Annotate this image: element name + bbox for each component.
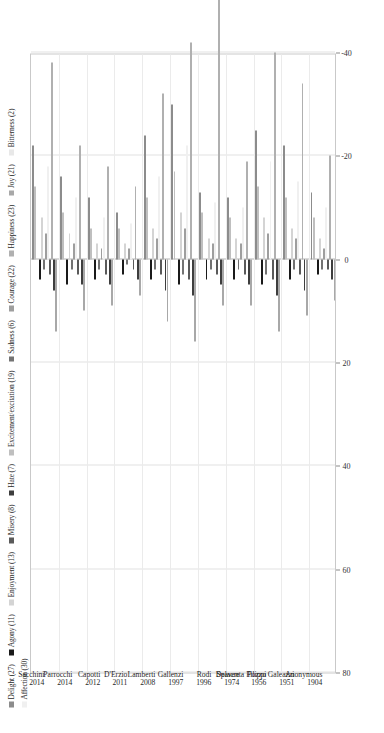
bar	[43, 259, 45, 269]
legend-item[interactable]: Agony (11)	[6, 614, 17, 655]
bar	[194, 259, 196, 342]
x-tick-label: -20	[341, 152, 352, 161]
x-tick-mark	[336, 259, 340, 260]
bar	[152, 228, 154, 259]
x-tick-label: -40	[341, 49, 352, 58]
x-tick-label: 0	[345, 255, 349, 264]
bar	[71, 259, 73, 269]
bar	[293, 259, 295, 269]
bar	[39, 259, 41, 280]
legend-swatch-icon	[9, 490, 15, 496]
x-tick-mark	[336, 362, 340, 363]
legend-item[interactable]: Excitement/excitation (19)	[6, 370, 17, 454]
bar	[306, 259, 308, 316]
legend-item[interactable]: Courage (22)	[6, 265, 17, 311]
legend-swatch-icon	[9, 702, 15, 708]
x-tick-label: 20	[343, 359, 351, 368]
bar	[317, 259, 319, 275]
x-tick-label: 80	[343, 669, 351, 678]
bar	[246, 161, 248, 259]
bar	[218, 0, 220, 259]
bar	[130, 223, 132, 259]
bar	[111, 259, 113, 306]
group-separator	[114, 54, 115, 672]
bar	[302, 83, 304, 259]
bar	[222, 259, 224, 306]
bar	[233, 259, 235, 280]
bar	[69, 233, 71, 259]
bar	[257, 186, 259, 258]
bar	[188, 259, 190, 280]
bar	[83, 259, 85, 311]
legend-item[interactable]: Bitterness (2)	[6, 108, 17, 155]
bar	[274, 52, 276, 259]
bar	[139, 259, 141, 295]
legend-swatch-icon	[9, 190, 15, 196]
legend-item-label: Hate (7)	[6, 464, 17, 488]
chart-root: Delight (27)Agony (11)Enjoyment (13)Mise…	[0, 0, 384, 733]
bar	[162, 93, 164, 258]
bar	[107, 166, 109, 259]
category-axis: Sacchini2014Parrocchi2014Capotti2012D'Er…	[30, 675, 336, 733]
bar	[90, 228, 92, 259]
bar	[297, 181, 299, 259]
group-separator	[59, 54, 60, 672]
bar	[34, 186, 36, 258]
legend-item-label: Enjoyment (13)	[6, 552, 17, 597]
bar	[272, 259, 274, 280]
bar	[238, 259, 240, 269]
legend-item[interactable]: Hate (7)	[6, 464, 17, 496]
legend-item-label: Excitement/excitation (19)	[6, 370, 17, 446]
bar	[325, 207, 327, 259]
bar	[51, 62, 53, 258]
bar	[146, 197, 148, 259]
x-tick-label: 40	[343, 462, 351, 471]
bar	[126, 259, 128, 264]
bar	[178, 259, 180, 285]
legend-item[interactable]: Joy (21)	[6, 164, 17, 196]
legend-item-label: Joy (21)	[6, 164, 17, 188]
x-tick-label: 60	[343, 565, 351, 574]
bar	[289, 259, 291, 280]
bar	[270, 161, 272, 259]
bar	[105, 259, 107, 275]
gridline	[31, 464, 335, 465]
legend-item-label: Agony (11)	[6, 614, 17, 647]
bar	[41, 217, 43, 258]
x-tick-mark	[336, 569, 340, 570]
chart-figure: Delight (27)Agony (11)Enjoyment (13)Mise…	[0, 0, 384, 733]
bar	[49, 259, 51, 275]
bar	[216, 259, 218, 275]
bar	[158, 176, 160, 259]
legend-item-label: Courage (22)	[6, 265, 17, 303]
x-tick-mark	[336, 672, 340, 673]
bar	[244, 259, 246, 275]
legend-item[interactable]: Enjoyment (13)	[6, 552, 17, 605]
legend-swatch-icon	[9, 356, 15, 362]
bar	[98, 259, 100, 269]
legend-swatch-icon	[9, 251, 15, 257]
bar	[154, 259, 156, 269]
bar	[313, 217, 315, 258]
category-label-year: 1904	[266, 679, 322, 687]
bar	[180, 212, 182, 259]
legend-swatch-icon	[9, 649, 15, 655]
bar	[201, 212, 203, 259]
bar	[174, 171, 176, 259]
x-tick-mark	[336, 155, 340, 156]
legend-item[interactable]: Misery (8)	[6, 504, 17, 542]
x-tick-mark	[336, 465, 340, 466]
bar	[263, 217, 265, 258]
group-separator	[309, 54, 310, 672]
legend-swatch-icon	[9, 449, 15, 455]
gridline	[31, 51, 335, 52]
gridline	[31, 361, 335, 362]
legend-item[interactable]: Happiness (23)	[6, 204, 17, 256]
group-separator	[87, 54, 88, 672]
bar	[160, 259, 162, 275]
bar	[150, 259, 152, 280]
group-separator	[198, 54, 199, 672]
legend-item[interactable]: Sadness (6)	[6, 320, 17, 361]
bar	[190, 42, 192, 259]
legend-item-label: Sadness (6)	[6, 320, 17, 353]
